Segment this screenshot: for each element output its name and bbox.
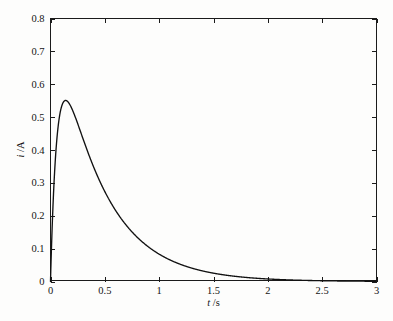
chart-plot-area: 00.511.522.53 00.10.20.30.40.50.60.70.8 … xyxy=(0,0,393,321)
y-axis-ticks xyxy=(51,20,377,283)
x-tick-label: 1.5 xyxy=(207,285,220,296)
data-curve-i-of-t xyxy=(51,100,377,281)
x-tick-label: 0 xyxy=(48,285,53,296)
y-axis-title: i /A xyxy=(15,141,26,157)
y-tick-label: 0.7 xyxy=(31,46,44,57)
x-axis-title-group: t /s xyxy=(207,297,220,308)
x-tick-label: 2.5 xyxy=(316,285,329,296)
axes-rectangle xyxy=(51,19,377,281)
x-axis-tick-labels: 00.511.522.53 xyxy=(48,285,379,296)
axes-box xyxy=(51,19,377,281)
y-tick-label: 0.4 xyxy=(31,145,45,156)
y-tick-label: 0.2 xyxy=(31,210,44,221)
y-axis-tick-labels: 00.10.20.30.40.50.60.70.8 xyxy=(31,13,45,287)
x-tick-label: 3 xyxy=(374,285,379,296)
y-tick-label: 0.6 xyxy=(31,79,44,90)
chart-figure: 00.511.522.53 00.10.20.30.40.50.60.70.8 … xyxy=(0,0,393,321)
y-tick-label: 0.8 xyxy=(31,13,44,24)
data-series-group xyxy=(51,100,377,281)
y-tick-label: 0.1 xyxy=(31,243,44,254)
x-axis-title: t /s xyxy=(207,297,220,308)
y-tick-label: 0.5 xyxy=(31,112,44,123)
y-tick-label: 0 xyxy=(39,276,44,287)
x-tick-label: 1 xyxy=(157,285,162,296)
x-tick-label: 0.5 xyxy=(98,285,111,296)
y-tick-label: 0.3 xyxy=(31,177,44,188)
y-axis-title-group: i /A xyxy=(15,141,26,157)
x-axis-ticks xyxy=(52,19,378,282)
x-tick-label: 2 xyxy=(265,285,270,296)
